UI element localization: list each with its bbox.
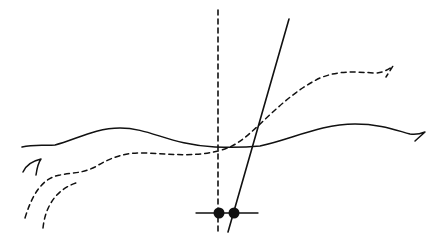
sketch-diagram [0, 0, 440, 247]
right-dot [229, 208, 240, 219]
left-dot [214, 208, 225, 219]
dashed-s-curve [25, 66, 393, 218]
dashed-secondary-arc [43, 183, 76, 228]
solid-wavy-curve [22, 124, 425, 147]
left-hook [23, 159, 41, 175]
slanted-solid-line [228, 19, 289, 232]
